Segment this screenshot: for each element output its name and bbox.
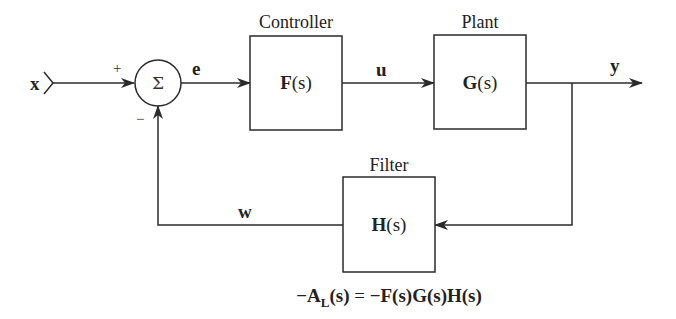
input-x: x [30,72,53,94]
sigma-icon: Σ [152,73,164,93]
summing-junction: Σ [135,60,181,106]
controller-title: Controller [259,12,333,32]
signal-y-label: y [610,55,620,76]
plant-function: G(s) [463,72,498,94]
input-label: x [30,73,40,94]
controller-function: F(s) [280,72,312,94]
block-diagram: x + Σ − e Controller F(s) u Plant G(s) y… [0,0,676,319]
filter-block: Filter H(s) [343,155,435,272]
controller-block: Controller F(s) [250,12,342,130]
filter-title: Filter [370,155,409,175]
plus-sign: + [113,60,121,76]
filter-function: H(s) [372,214,407,236]
signal-u-label: u [376,59,387,80]
input-chevron-icon [44,72,53,94]
minus-sign: − [136,111,144,127]
plant-title: Plant [461,12,498,32]
signal-w-label: w [238,201,252,222]
loop-gain-equation: −AL(s) = −F(s)G(s)H(s) [296,285,482,310]
plant-block: Plant G(s) [434,12,526,129]
signal-e-label: e [192,58,200,79]
